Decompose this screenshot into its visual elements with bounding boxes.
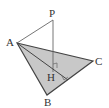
edge-pa [17, 20, 53, 43]
label-h: H [47, 71, 55, 83]
geometry-diagram: P A C H B [0, 0, 109, 108]
diagram-canvas: P A C H B [0, 0, 109, 108]
label-b: B [44, 96, 51, 108]
label-p: P [49, 7, 55, 19]
label-a: A [6, 36, 14, 48]
label-c: C [95, 55, 102, 67]
